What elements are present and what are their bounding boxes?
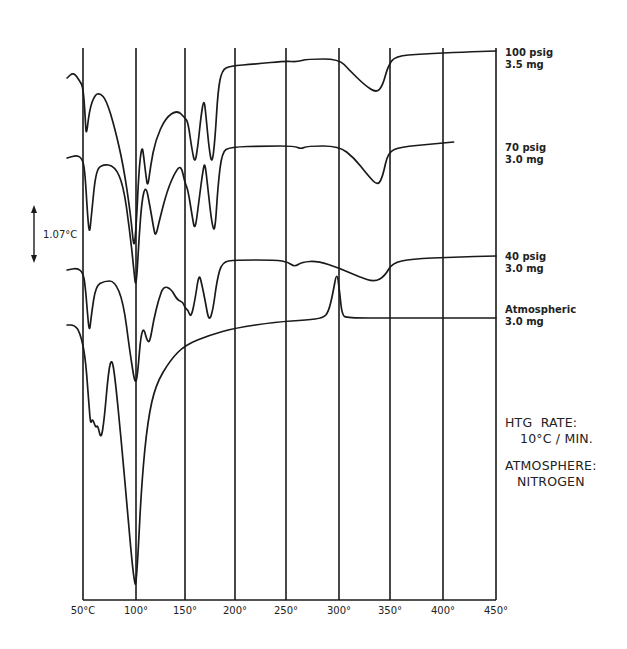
- legend-70-psig: 70 psig 3.0 mg: [505, 142, 546, 166]
- x-tick-label: 400°: [431, 605, 455, 616]
- x-tick-label: 100°: [124, 605, 148, 616]
- legend-100-psig-line2: 3.5 mg: [505, 59, 553, 71]
- legend-100-psig-line1: 100 psig: [505, 47, 553, 59]
- x-tick-label: 300°: [327, 605, 351, 616]
- x-tick-label: 150°: [173, 605, 197, 616]
- x-tick-label: 450°: [484, 605, 508, 616]
- atmosphere-title: ATMOSPHERE:: [505, 458, 597, 474]
- legend-atmospheric-line1: Atmospheric: [505, 304, 576, 316]
- x-tick-label: 200°: [223, 605, 247, 616]
- scale-bar-label: 1.07°C: [43, 229, 77, 240]
- heating-rate-title: HTG RATE:: [505, 415, 593, 431]
- curve-100-psig: [67, 51, 496, 244]
- curve-70-psig: [67, 142, 454, 283]
- legend-40-psig: 40 psig 3.0 mg: [505, 251, 546, 275]
- legend-70-psig-line1: 70 psig: [505, 142, 546, 154]
- heating-rate-annotation: HTG RATE: 10°C / MIN.: [505, 415, 593, 447]
- curve-atmospheric: [67, 276, 496, 584]
- legend-atmospheric-line2: 3.0 mg: [505, 316, 576, 328]
- legend-100-psig: 100 psig 3.5 mg: [505, 47, 553, 71]
- legend-40-psig-line1: 40 psig: [505, 251, 546, 263]
- legend-70-psig-line2: 3.0 mg: [505, 154, 546, 166]
- atmosphere-annotation: ATMOSPHERE: NITROGEN: [505, 458, 597, 490]
- scale-bar-arrow-icon: [31, 205, 37, 263]
- heating-rate-value: 10°C / MIN.: [505, 431, 593, 447]
- x-tick-label: 350°: [378, 605, 402, 616]
- x-tick-label: 50°C: [71, 605, 96, 616]
- atmosphere-value: NITROGEN: [505, 474, 597, 490]
- x-tick-label: 250°: [274, 605, 298, 616]
- vertical-grid-lines: [83, 48, 496, 600]
- legend-40-psig-line2: 3.0 mg: [505, 263, 546, 275]
- legend-atmospheric: Atmospheric 3.0 mg: [505, 304, 576, 328]
- curves: [67, 51, 496, 584]
